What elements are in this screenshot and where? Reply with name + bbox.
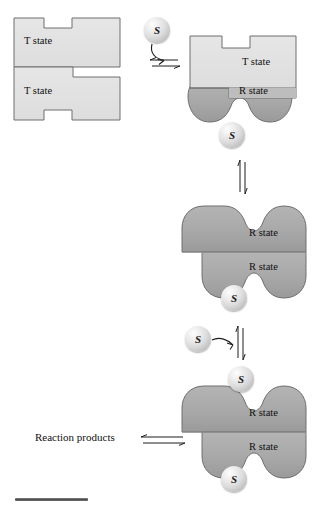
reaction-products-label: Reaction products — [35, 432, 115, 443]
stage-1-enzyme — [14, 18, 120, 120]
substrate-ball-stage1-free: S — [144, 17, 170, 43]
substrate-ball-stage4-bound-lower: S — [221, 466, 247, 492]
arrow-stage3-to-stage4 — [236, 326, 245, 360]
figure-canvas: T state T state T state R state R state … — [0, 0, 326, 515]
substrate-ball-letter: S — [238, 373, 244, 385]
substrate-ball-stage4-bound-upper: S — [228, 366, 254, 392]
stage-2-upper-label: T state — [242, 57, 270, 68]
stage-3-upper-label: R state — [249, 228, 278, 239]
stage-4-lower-label: R state — [249, 442, 278, 453]
arrow-stage2-to-stage3 — [238, 160, 247, 194]
stage-3-subunit-lower-r — [202, 252, 306, 298]
substrate-ball-stage3-free: S — [185, 326, 211, 352]
stage-4-enzyme — [182, 386, 306, 478]
substrate-ball-letter: S — [231, 292, 237, 304]
arrow-substrate-entry-lower — [212, 338, 233, 349]
stage-2-enzyme — [188, 36, 296, 122]
substrate-ball-stage2-bound: S — [219, 122, 245, 148]
stage-1-upper-label: T state — [24, 36, 52, 47]
stage-4-subunit-upper-r — [182, 386, 306, 432]
arrow-products — [141, 435, 185, 446]
stage-3-lower-label: R state — [249, 262, 278, 273]
stage-1-lower-label: T state — [24, 86, 52, 97]
substrate-ball-stage3-bound: S — [221, 285, 247, 311]
arrow-stage1-to-stage2 — [150, 58, 180, 69]
stage-4-upper-label: R state — [249, 408, 278, 419]
substrate-ball-letter: S — [154, 24, 160, 36]
arrow-substrate-entry-top — [152, 44, 165, 65]
substrate-ball-letter: S — [229, 129, 235, 141]
stage-3-subunit-upper-r — [182, 206, 306, 252]
substrate-ball-letter: S — [231, 473, 237, 485]
stage-2-lower-label: R state — [239, 86, 268, 97]
substrate-ball-letter: S — [195, 333, 201, 345]
stage-3-enzyme — [182, 206, 306, 298]
stage-4-subunit-lower-r — [202, 432, 306, 478]
scale-bar — [15, 498, 88, 501]
